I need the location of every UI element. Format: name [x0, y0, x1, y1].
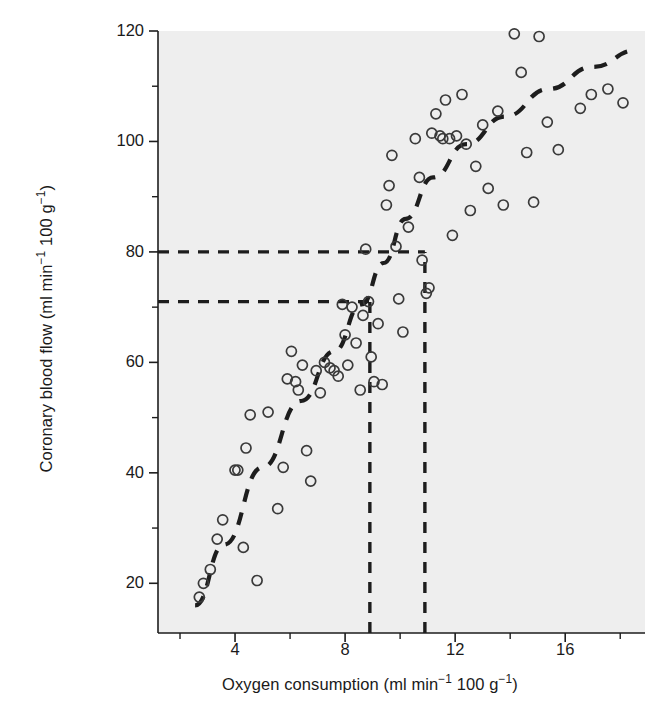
- figure-root: Coronary blood flow (ml min−1 100 g−1) O…: [0, 0, 659, 711]
- scatter-plot-canvas: [0, 0, 659, 711]
